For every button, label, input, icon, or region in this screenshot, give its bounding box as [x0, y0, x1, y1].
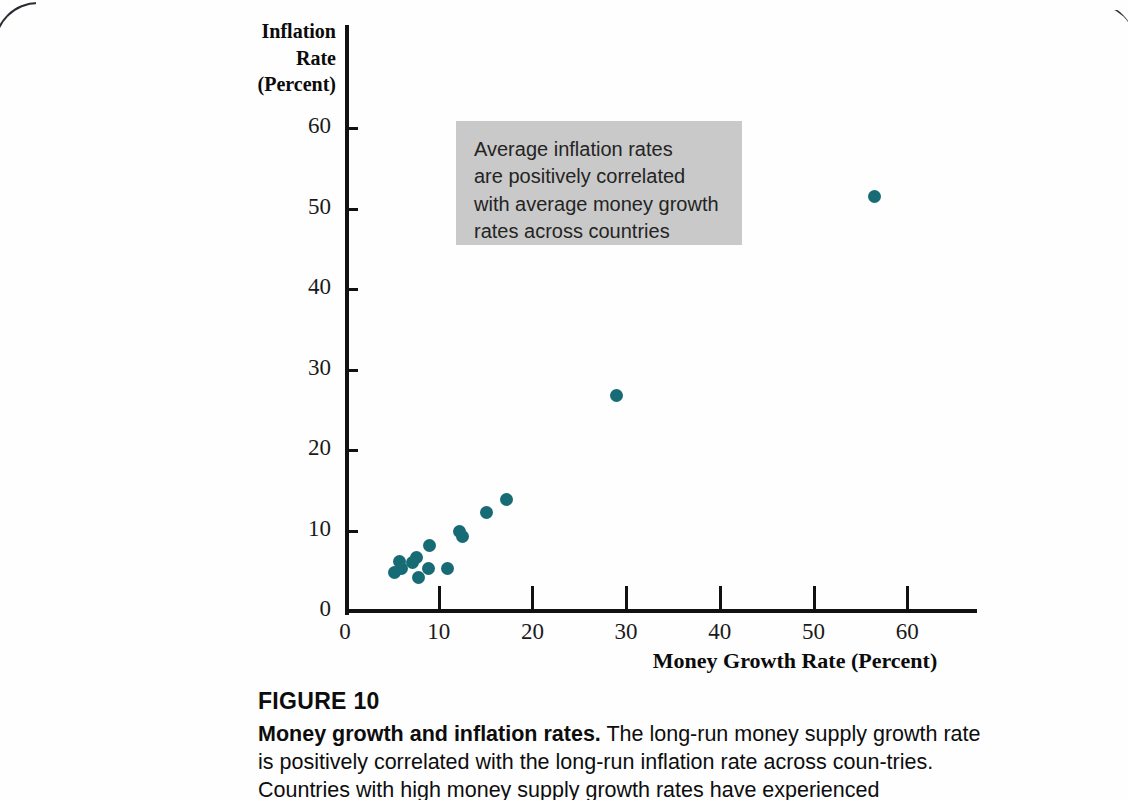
annotation-line-3: with average money growth — [474, 191, 736, 218]
y-tick-label-10: 10 — [271, 516, 331, 542]
figure-scatter-chart: Inflation Rate (Percent) 0102030405060 0… — [0, 0, 1128, 800]
scatter-point — [422, 562, 435, 575]
y-tick-50 — [345, 208, 358, 211]
annotation-line-4: rates across countries — [474, 218, 736, 245]
y-axis-line — [345, 25, 349, 615]
x-tick-label-20: 20 — [502, 619, 562, 645]
y-tick-10 — [345, 530, 358, 533]
y-tick-20 — [345, 449, 358, 452]
scatter-point — [610, 389, 623, 402]
y-axis-title-line-3: (Percent) — [228, 71, 336, 98]
caption-lead: Money growth and inflation rates. — [258, 722, 601, 746]
scatter-point — [410, 551, 423, 564]
x-tick-60 — [906, 586, 909, 610]
x-tick-30 — [625, 586, 628, 610]
y-axis-title: Inflation Rate (Percent) — [228, 18, 336, 98]
y-tick-label-40: 40 — [271, 274, 331, 300]
y-tick-40 — [345, 288, 358, 291]
y-tick-label-50: 50 — [271, 194, 331, 220]
x-axis-title: Money Growth Rate (Percent) — [600, 648, 990, 674]
x-tick-label-10: 10 — [409, 619, 469, 645]
y-axis-title-line-1: Inflation — [228, 18, 336, 45]
x-tick-20 — [531, 586, 534, 610]
x-tick-label-0: 0 — [315, 619, 375, 645]
y-tick-label-60: 60 — [271, 113, 331, 139]
x-tick-40 — [719, 586, 722, 610]
scatter-point — [868, 190, 881, 203]
x-tick-label-60: 60 — [877, 619, 937, 645]
annotation-line-1: Average inflation rates — [474, 136, 736, 163]
x-tick-label-40: 40 — [690, 619, 750, 645]
caption-heading: FIGURE 10 — [258, 688, 988, 715]
x-tick-label-50: 50 — [784, 619, 844, 645]
annotation-box: Average inflation rates are positively c… — [456, 121, 742, 245]
y-tick-label-30: 30 — [271, 355, 331, 381]
y-axis-title-line-2: Rate — [228, 45, 336, 72]
scatter-point — [480, 506, 493, 519]
x-tick-label-30: 30 — [596, 619, 656, 645]
annotation-line-2: are positively correlated — [474, 163, 736, 190]
annotation-text: Average inflation rates are positively c… — [474, 136, 736, 246]
scatter-point — [500, 493, 513, 506]
figure-caption: FIGURE 10 Money growth and inflation rat… — [258, 688, 988, 800]
x-tick-50 — [813, 586, 816, 610]
y-tick-60 — [345, 127, 358, 130]
y-tick-label-20: 20 — [271, 435, 331, 461]
scatter-point — [456, 530, 469, 543]
x-tick-10 — [438, 586, 441, 610]
scatter-point — [441, 562, 454, 575]
scatter-point — [423, 539, 436, 552]
caption-body: Money growth and inflation rates. The lo… — [258, 721, 988, 800]
y-tick-30 — [345, 369, 358, 372]
